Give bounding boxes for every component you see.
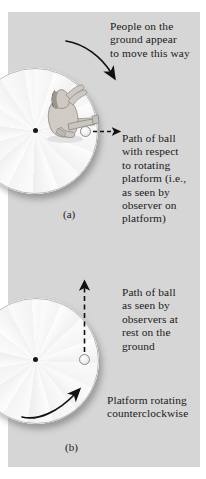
ball-a bbox=[80, 126, 91, 137]
caption-line: with respect bbox=[122, 145, 206, 158]
panel-label-a: (a) bbox=[63, 208, 75, 220]
caption-line: ground bbox=[122, 340, 206, 353]
caption-line: observers at bbox=[122, 313, 206, 326]
ball-b bbox=[79, 354, 90, 365]
caption-line: Path of ball bbox=[122, 286, 206, 299]
caption-line: Platform rotating bbox=[107, 394, 206, 407]
caption-line: to rotating bbox=[122, 159, 206, 172]
caption-line: platform (i.e., bbox=[122, 172, 206, 185]
caption-line: to move this way bbox=[110, 47, 206, 60]
caption-ball-path-b: Path of ball as seen by observers at res… bbox=[122, 286, 206, 353]
panel-label-b: (b) bbox=[65, 441, 78, 453]
caption-line: platform) bbox=[122, 212, 206, 225]
physics-figure-rotating-platform: People on the ground appear to move this… bbox=[0, 0, 206, 479]
caption-line: People on the bbox=[110, 20, 206, 33]
caption-line: rest on the bbox=[122, 326, 206, 339]
platform-center-dot-a bbox=[33, 128, 38, 133]
caption-line: as seen by bbox=[122, 186, 206, 199]
caption-line: as seen by bbox=[122, 299, 206, 312]
caption-line: Path of ball bbox=[122, 132, 206, 145]
caption-apparent-motion-a: People on the ground appear to move this… bbox=[110, 20, 206, 60]
caption-line: ground appear bbox=[110, 33, 206, 46]
caption-ball-path-a: Path of ball with respect to rotating pl… bbox=[122, 132, 206, 226]
caption-line: counterclockwise bbox=[107, 407, 206, 420]
caption-line: observer on bbox=[122, 199, 206, 212]
caption-rotation-b: Platform rotating counterclockwise bbox=[107, 394, 206, 421]
platform-center-dot-b bbox=[33, 357, 38, 362]
